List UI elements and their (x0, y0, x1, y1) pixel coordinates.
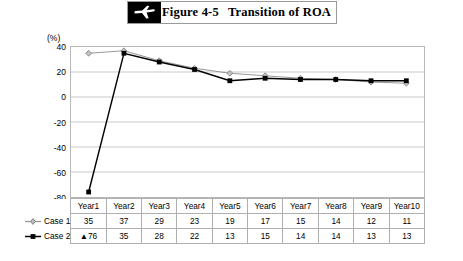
table-cell: 14 (283, 229, 318, 244)
chart-marker-square (86, 190, 91, 195)
table-cell: 13 (354, 229, 389, 244)
table-cell: 14 (318, 214, 353, 229)
table-cell: 13 (389, 229, 424, 244)
table-col-header: Year4 (177, 199, 212, 214)
table-cell: 19 (212, 214, 247, 229)
legend-entry-case-1: Case 1 (25, 214, 71, 229)
legend-entry-case-2: Case 2 (25, 229, 71, 244)
table-row: Case 2 ▲76 35 28 22 13 15 14 14 13 13 (25, 229, 425, 244)
axis-unit-label: (%) (47, 33, 60, 43)
table-col-header: Year6 (248, 199, 283, 214)
table-cell: ▲76 (71, 229, 106, 244)
y-tick-label: -40 (40, 143, 66, 153)
data-table-wrapper: Year1 Year2 Year3 Year4 Year5 Year6 Year… (25, 198, 425, 244)
table-cell: 37 (106, 214, 141, 229)
table-col-header: Year5 (212, 199, 247, 214)
figure-header: Figure 4-5Transition of ROA (127, 1, 337, 24)
chart-marker-square (404, 78, 409, 83)
figure-root: Figure 4-5Transition of ROA (%) 40 20 0 … (0, 0, 463, 261)
table-col-header: Year7 (283, 199, 318, 214)
chart-marker-square (122, 51, 127, 56)
table-col-header: Year10 (389, 199, 424, 214)
table-cell: 23 (177, 214, 212, 229)
table-col-header: Year8 (318, 199, 353, 214)
chart-plot-area (70, 46, 425, 198)
table-cell: 15 (248, 229, 283, 244)
data-table: Year1 Year2 Year3 Year4 Year5 Year6 Year… (25, 198, 425, 244)
table-cell: 35 (106, 229, 141, 244)
table-cell: 35 (71, 214, 106, 229)
chart-marker-square (333, 77, 338, 82)
table-header-row: Year1 Year2 Year3 Year4 Year5 Year6 Year… (25, 199, 425, 214)
table-cell: 29 (142, 214, 177, 229)
chart-marker-square (192, 67, 197, 72)
table-col-header: Year9 (354, 199, 389, 214)
table-cell: 14 (318, 229, 353, 244)
figure-title: Figure 4-5Transition of ROA (161, 5, 336, 20)
y-tick-label: 20 (40, 67, 66, 77)
y-tick-label: -60 (40, 168, 66, 178)
y-tick-label: 40 (40, 42, 66, 52)
figure-number: Figure 4-5 (162, 5, 219, 19)
table-cell: 22 (177, 229, 212, 244)
chart-marker-diamond (86, 50, 92, 56)
table-cell: 28 (142, 229, 177, 244)
table-cell: 13 (212, 229, 247, 244)
chart-marker-square (298, 77, 303, 82)
table-cell: 17 (248, 214, 283, 229)
chart-marker-square (157, 60, 162, 65)
table-col-header: Year1 (71, 199, 106, 214)
table-row: Case 1 35 37 29 23 19 17 15 14 12 11 (25, 214, 425, 229)
chart-canvas (71, 47, 424, 197)
legend-marker-square-icon (25, 232, 41, 241)
table-corner-cell (25, 199, 71, 214)
chart-marker-square (263, 76, 268, 81)
table-col-header: Year3 (142, 199, 177, 214)
table-col-header: Year2 (106, 199, 141, 214)
legend-label: Case 1 (44, 216, 70, 226)
airplane-icon (128, 2, 161, 23)
y-tick-label: 0 (40, 92, 66, 102)
legend-marker-diamond-icon (25, 217, 41, 226)
chart-marker-square (369, 78, 374, 83)
chart-marker-diamond (227, 70, 233, 76)
table-cell: 11 (389, 214, 424, 229)
table-cell: 15 (283, 214, 318, 229)
y-tick-label: -20 (40, 118, 66, 128)
legend-label: Case 2 (44, 231, 70, 241)
table-cell: 12 (354, 214, 389, 229)
chart-marker-square (227, 78, 232, 83)
figure-title-text: Transition of ROA (228, 5, 331, 19)
